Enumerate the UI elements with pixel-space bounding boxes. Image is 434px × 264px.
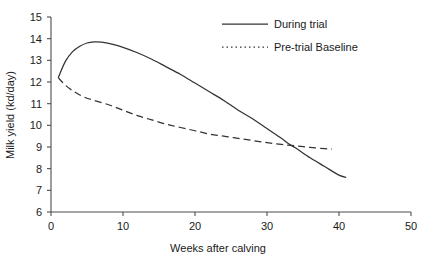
x-axis-title: Weeks after calving bbox=[170, 242, 266, 254]
y-tick-label: 8 bbox=[36, 163, 42, 175]
chart-background bbox=[0, 0, 434, 264]
milk-yield-chart: 6789101112131415 01020304050 Weeks after… bbox=[0, 0, 434, 264]
x-tick-label: 50 bbox=[405, 220, 417, 232]
legend-label-pre-trial-baseline: Pre-trial Baseline bbox=[274, 41, 358, 53]
x-tick-label: 10 bbox=[117, 220, 129, 232]
y-tick-label: 10 bbox=[30, 119, 42, 131]
x-tick-label: 40 bbox=[333, 220, 345, 232]
chart-canvas: 6789101112131415 01020304050 Weeks after… bbox=[0, 0, 434, 264]
y-tick-label: 11 bbox=[31, 98, 42, 110]
y-tick-label: 6 bbox=[36, 206, 42, 218]
y-tick-label: 14 bbox=[30, 33, 42, 45]
y-tick-label: 15 bbox=[30, 11, 42, 23]
y-tick-label: 9 bbox=[36, 141, 42, 153]
y-tick-label: 12 bbox=[30, 76, 42, 88]
y-tick-label: 7 bbox=[36, 184, 42, 196]
x-tick-label: 0 bbox=[48, 220, 54, 232]
y-tick-label: 13 bbox=[30, 54, 42, 66]
y-axis-title: Milk yield (kd/day) bbox=[4, 71, 16, 159]
legend-label-during-trial: During trial bbox=[274, 18, 327, 30]
x-tick-label: 20 bbox=[189, 220, 201, 232]
x-tick-label: 30 bbox=[261, 220, 273, 232]
